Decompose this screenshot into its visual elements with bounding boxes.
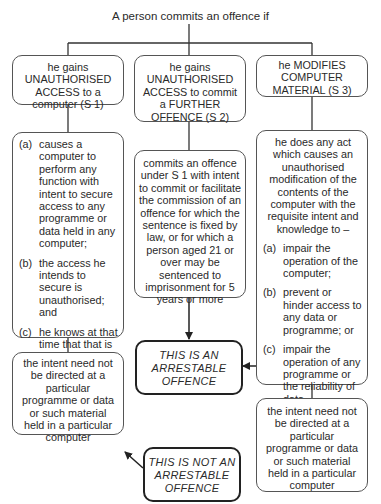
s1-heading-line: computer (S 1): [16, 98, 120, 110]
s2-heading-line: ACCESS to commit: [138, 86, 242, 98]
condition-text: the access he intends to secure is unaut…: [39, 257, 119, 319]
s1-conditions-box: (a) causes a computer to perform any fun…: [12, 132, 124, 338]
s3-heading-line: he MODIFIES: [260, 59, 364, 71]
s1-heading-box: he gains UNAUTHORISED ACCESS to a comput…: [12, 55, 124, 105]
s1-condition-b: (b) the access he intends to secure is u…: [19, 257, 119, 319]
condition-text: impair the operation of the computer;: [283, 242, 363, 279]
s3-condition-b: (b) prevent or hinder access to any data…: [263, 286, 363, 336]
s2-heading-line: a FURTHER: [138, 98, 242, 110]
condition-text: impair the operation of any programme or…: [283, 343, 363, 405]
condition-label: (c): [263, 343, 283, 405]
not-arrestable-line: OFFENCE: [148, 482, 236, 495]
not-arrestable-line: ARRESTABLE: [148, 469, 236, 482]
s2-heading-box: he gains UNAUTHORISED ACCESS to commit a…: [134, 55, 246, 122]
s1-heading-line: UNAUTHORISED: [16, 73, 120, 85]
diagram-title: A person commits an offence if: [0, 9, 381, 23]
arrestable-line: OFFENCE: [140, 375, 238, 388]
s2-description-box: commits an offence under S 1 with intent…: [134, 150, 246, 298]
s1-note-text: the intent need not be directed at a par…: [22, 357, 114, 443]
s1-note-box: the intent need not be directed at a par…: [12, 352, 124, 435]
not-arrestable-to-s1-arrow: [125, 452, 143, 468]
s2-heading-line: UNAUTHORISED: [138, 73, 242, 85]
s3-heading-line: COMPUTER: [260, 71, 364, 83]
condition-label: (a): [19, 138, 39, 250]
arrestable-line: ARRESTABLE: [140, 362, 238, 375]
condition-text: prevent or hinder access to any data or …: [283, 286, 363, 336]
condition-label: (a): [263, 242, 283, 279]
s3-act-box: he does any act which causes an unauthor…: [256, 130, 368, 385]
s1-condition-a: (a) causes a computer to perform any fun…: [19, 138, 119, 250]
s2-heading-line: he gains: [138, 61, 242, 73]
s2-description-text: commits an offence under S 1 with intent…: [139, 157, 241, 305]
s3-heading-line: MATERIAL (S 3): [260, 84, 364, 96]
s3-condition-a: (a) impair the operation of the computer…: [263, 242, 363, 279]
s3-note-box: the intent need not be directed at a par…: [256, 398, 368, 492]
s3-intro-text: he does any act which causes an unauthor…: [263, 136, 363, 235]
s3-condition-c: (c) impair the operation of any programm…: [263, 343, 363, 405]
s3-heading-box: he MODIFIES COMPUTER MATERIAL (S 3): [256, 55, 368, 97]
condition-label: (b): [19, 257, 39, 319]
s1-heading-line: he gains: [16, 61, 120, 73]
arrestable-offence-box: THIS IS AN ARRESTABLE OFFENCE: [135, 340, 243, 395]
not-arrestable-line: THIS IS NOT AN: [148, 456, 236, 469]
arrestable-line: THIS IS AN: [140, 349, 238, 362]
s1-heading-line: ACCESS to a: [16, 86, 120, 98]
not-arrestable-offence-box: THIS IS NOT AN ARRESTABLE OFFENCE: [143, 447, 241, 502]
s2-heading-line: OFFENCE (S 2): [138, 111, 242, 123]
condition-label: (b): [263, 286, 283, 336]
condition-text: causes a computer to perform any functio…: [39, 138, 119, 250]
s3-note-text: the intent need not be directed at a par…: [266, 405, 358, 491]
